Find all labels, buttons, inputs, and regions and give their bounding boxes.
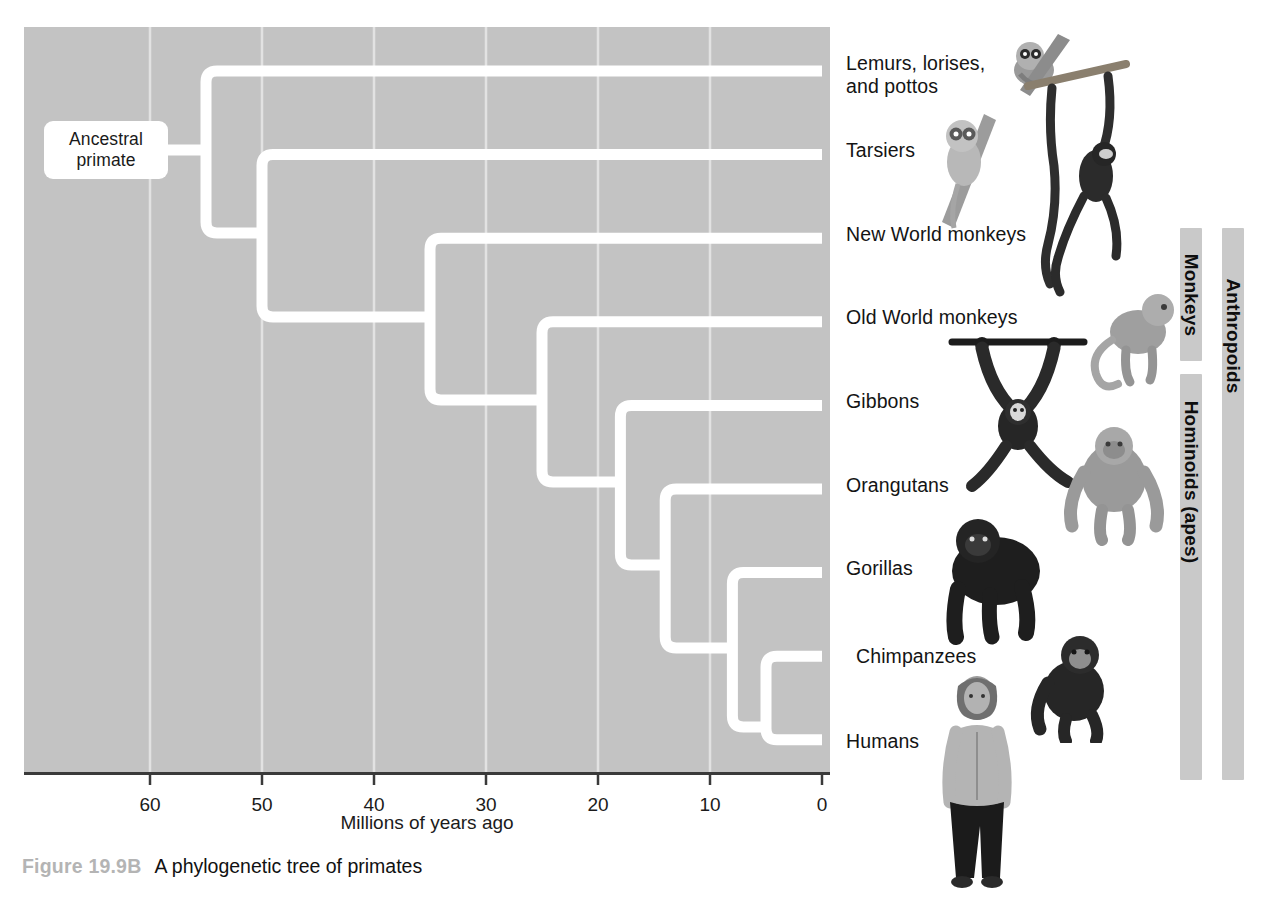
group-bar-hominoids-apes: Hominoids (apes) (1180, 374, 1202, 780)
group-bar-label: Anthropoids (1222, 278, 1244, 393)
group-bar-anthropoids: Anthropoids (1222, 228, 1244, 780)
group-bar-label: Monkeys (1180, 253, 1202, 336)
group-bar-label: Hominoids (apes) (1180, 401, 1202, 564)
taxon-label-lemurs-lorises-and-pottos: Lemurs, lorises, and pottos (846, 52, 985, 98)
figure-number: Figure 19.9B (22, 855, 141, 877)
taxon-label-gibbons: Gibbons (846, 390, 919, 413)
chimpanzee-illustration (1018, 625, 1126, 743)
ancestral-primate-label: Ancestral primate (44, 121, 168, 179)
taxon-label-humans: Humans (846, 730, 919, 753)
gorilla-illustration (930, 505, 1060, 645)
figure-container: Ancestral primate 6050403020100 Millions… (0, 0, 1267, 919)
orangutan-illustration (1058, 420, 1170, 546)
axis-title: Millions of years ago (24, 812, 830, 834)
figure-caption: Figure 19.9BA phylogenetic tree of prima… (22, 855, 422, 878)
spider-monkey-illustration (1022, 58, 1132, 318)
human-illustration (930, 668, 1024, 896)
caption-text: A phylogenetic tree of primates (154, 855, 422, 877)
group-bar-monkeys: Monkeys (1180, 228, 1202, 361)
taxon-label-chimpanzees: Chimpanzees (856, 645, 976, 668)
axis-ticks (150, 774, 822, 786)
taxon-label-old-world-monkeys: Old World monkeys (846, 306, 1017, 329)
macaque-illustration (1082, 280, 1190, 392)
taxon-label-tarsiers: Tarsiers (846, 139, 915, 162)
taxon-label-orangutans: Orangutans (846, 474, 949, 497)
tarsier-illustration (928, 110, 1006, 235)
taxon-label-gorillas: Gorillas (846, 557, 913, 580)
